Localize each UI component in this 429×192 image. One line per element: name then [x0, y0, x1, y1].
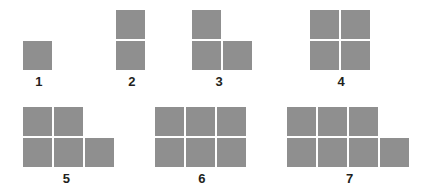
- square-gap: [85, 107, 114, 136]
- figure-1-squares: [23, 41, 54, 72]
- square: [155, 138, 184, 167]
- square: [23, 107, 52, 136]
- figure-5-squares: [23, 107, 116, 169]
- square: [186, 107, 215, 136]
- square: [318, 107, 347, 136]
- square-row: [287, 107, 411, 138]
- square: [349, 107, 378, 136]
- square: [116, 41, 145, 70]
- square: [287, 107, 316, 136]
- square-row: [23, 41, 54, 72]
- square-row: [310, 41, 372, 72]
- square-row: [23, 138, 116, 169]
- square-row: [23, 107, 116, 138]
- square-row: [155, 138, 248, 169]
- figure-4: 4: [310, 10, 372, 89]
- square: [318, 138, 347, 167]
- square-gap: [223, 10, 252, 39]
- figure-label: 2: [116, 75, 147, 89]
- figure-7-squares: [287, 107, 411, 169]
- square: [341, 10, 370, 39]
- square: [287, 138, 316, 167]
- square: [217, 138, 246, 167]
- square-row: [310, 10, 372, 41]
- figure-3: 3: [192, 10, 254, 89]
- square-row: [116, 10, 147, 41]
- square-row: [116, 41, 147, 72]
- square: [155, 107, 184, 136]
- square: [85, 138, 114, 167]
- figure-label: 1: [23, 75, 54, 89]
- square: [116, 10, 145, 39]
- square: [380, 138, 409, 167]
- figure-2-squares: [116, 10, 147, 72]
- figure-label: 7: [288, 172, 412, 186]
- figure-1: 1: [23, 41, 54, 89]
- square-row: [287, 138, 411, 169]
- figure-6: 6: [155, 107, 248, 186]
- figure-3-squares: [192, 10, 254, 72]
- figure-6-squares: [155, 107, 248, 169]
- figure-label: 5: [20, 172, 113, 186]
- square: [192, 10, 221, 39]
- square: [223, 41, 252, 70]
- figure-label: 3: [188, 75, 250, 89]
- square-row: [155, 107, 248, 138]
- square: [186, 138, 215, 167]
- square: [310, 10, 339, 39]
- figure-2: 2: [116, 10, 147, 89]
- square: [23, 138, 52, 167]
- figure-5: 5: [23, 107, 116, 186]
- square-gap: [380, 107, 409, 136]
- square: [341, 41, 370, 70]
- square: [310, 41, 339, 70]
- square-row: [192, 41, 254, 72]
- figure-4-squares: [310, 10, 372, 72]
- figure-7: 7: [287, 107, 411, 186]
- figure-label: 6: [155, 172, 248, 186]
- figure-label: 4: [310, 75, 372, 89]
- square: [349, 138, 378, 167]
- square: [192, 41, 221, 70]
- square: [54, 107, 83, 136]
- square: [23, 41, 52, 70]
- square: [217, 107, 246, 136]
- figure-sequence-diagram: 1234567: [0, 0, 429, 192]
- square-row: [192, 10, 254, 41]
- square: [54, 138, 83, 167]
